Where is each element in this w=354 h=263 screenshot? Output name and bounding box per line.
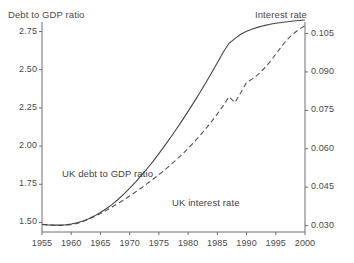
right-tick-label: 0.075: [311, 104, 351, 114]
chart-figure: Debt to GDP ratio Interest rate 1.501.75…: [0, 0, 354, 263]
x-tick-label: 2000: [288, 238, 322, 248]
plot-area: [0, 0, 354, 263]
series-label-uk-interest-rate: UK interest rate: [172, 197, 240, 208]
series-line-uk-debt-to-gdp-ratio: [42, 26, 305, 226]
right-tick-label: 0.060: [311, 143, 351, 153]
left-tick-label: 2.75: [3, 26, 37, 36]
right-tick-label: 0.030: [311, 220, 351, 230]
left-tick-label: 2.00: [3, 140, 37, 150]
series-line-uk-interest-rate: [42, 20, 305, 225]
left-tick-label: 1.75: [3, 178, 37, 188]
right-tick-label: 0.045: [311, 181, 351, 191]
right-tick-label: 0.105: [311, 28, 351, 38]
series-label-uk-debt-to-gdp-ratio: UK debt to GDP ratio: [62, 168, 153, 179]
left-tick-label: 1.50: [3, 216, 37, 226]
right-tick-label: 0.090: [311, 66, 351, 76]
left-tick-label: 2.25: [3, 102, 37, 112]
left-tick-label: 2.50: [3, 64, 37, 74]
